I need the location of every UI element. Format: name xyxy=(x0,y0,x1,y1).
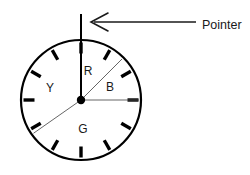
sector-label-red: R xyxy=(84,64,93,78)
spinner-wheel-diagram: Pointer R B G Y xyxy=(0,0,250,175)
pointer-callout-label: Pointer xyxy=(202,18,242,32)
sector-label-green: G xyxy=(78,122,87,136)
sector-label-blue: B xyxy=(106,80,114,94)
sector-label-yellow: Y xyxy=(46,81,54,95)
